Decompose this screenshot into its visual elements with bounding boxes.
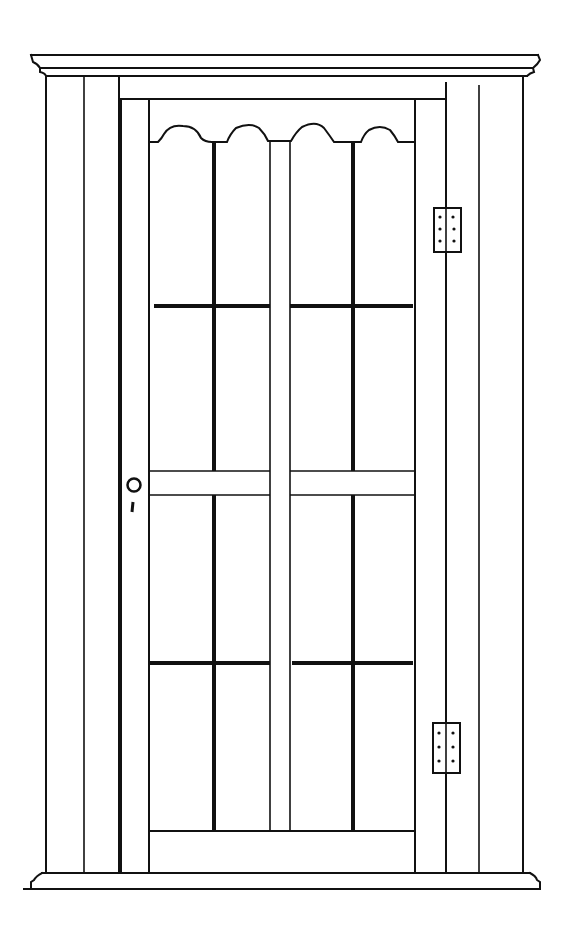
muntins	[149, 142, 413, 831]
cabinet-door-drawing	[0, 0, 576, 937]
door-knob-icon	[128, 479, 141, 492]
base-molding	[24, 873, 540, 889]
center-stile	[270, 142, 290, 831]
hinge-bottom-icon	[433, 723, 460, 773]
door-frame	[121, 99, 446, 873]
scalloped-top-rail	[149, 124, 415, 142]
cornice	[31, 55, 540, 76]
middle-rail	[149, 471, 415, 495]
hinge-top-icon	[434, 208, 461, 252]
keyhole-icon	[132, 502, 133, 512]
